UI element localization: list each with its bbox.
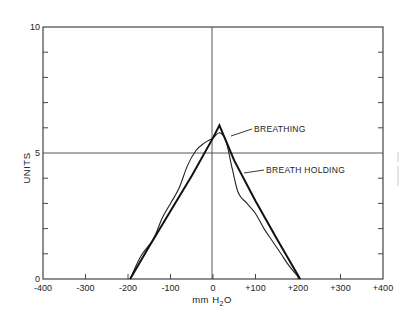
breath-holding-leader-line	[244, 170, 264, 173]
x-axis-tick-labels: -400-300-200-1000+100+200+300+400	[34, 283, 393, 293]
y-axis-title: UNITS	[21, 153, 32, 184]
x-tick-label: 0	[210, 283, 215, 293]
x-axis-title-main: mm H	[192, 294, 219, 305]
x-axis-title: mm H2O	[192, 294, 232, 307]
breathing-curve	[130, 125, 300, 279]
breath-holding-curve	[130, 133, 300, 279]
x-tick-label: +400	[373, 283, 393, 293]
y-tick-label: 0	[35, 274, 40, 284]
breath-holding-annotation: BREATH HOLDING	[266, 165, 345, 175]
y-tick-label: 5	[35, 148, 40, 158]
x-axis-ticks	[86, 274, 341, 279]
x-tick-label: -200	[119, 283, 137, 293]
x-axis-title-end: O	[224, 294, 232, 305]
breathing-leader-line	[231, 129, 252, 136]
x-tick-label: +100	[245, 283, 265, 293]
chart-canvas: -400-300-200-1000+100+200+300+400 0510 U…	[0, 0, 409, 320]
x-tick-label: +300	[330, 283, 350, 293]
x-tick-label: -100	[161, 283, 179, 293]
x-tick-label: -300	[76, 283, 94, 293]
breathing-annotation: BREATHING	[254, 124, 306, 134]
y-tick-label: 10	[30, 22, 40, 32]
x-tick-label: -400	[34, 283, 52, 293]
x-tick-label: +200	[288, 283, 308, 293]
